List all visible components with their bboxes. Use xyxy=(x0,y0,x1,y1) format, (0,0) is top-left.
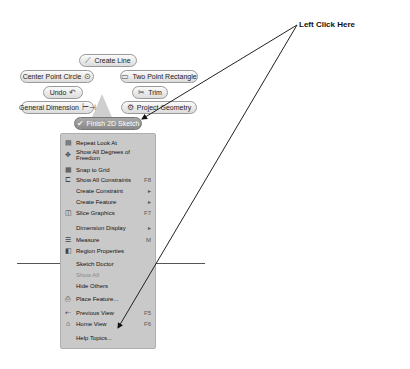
callout-arrows xyxy=(0,0,410,369)
